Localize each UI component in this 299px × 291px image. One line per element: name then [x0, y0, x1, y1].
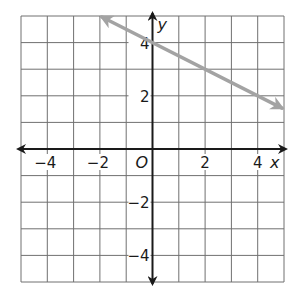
y-tick-label: −2	[127, 194, 149, 212]
y-tick-label: 2	[140, 88, 150, 106]
y-axis-label: y	[157, 15, 168, 34]
x-tick-label: −4	[34, 154, 56, 172]
coordinate-plane: −4−22442−2−4 x y O	[0, 0, 299, 291]
x-tick-label: 4	[253, 154, 263, 172]
x-axis-label: x	[269, 153, 280, 172]
x-tick-label: −2	[87, 154, 109, 172]
origin-label: O	[136, 153, 149, 172]
y-tick-label: −4	[127, 247, 149, 265]
x-tick-label: 2	[200, 154, 210, 172]
